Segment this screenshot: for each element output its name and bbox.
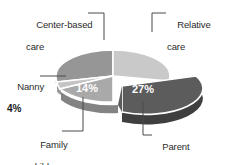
label-nanny-name: Nanny: [17, 81, 44, 92]
slice-relative-care[interactable]: [113, 50, 170, 81]
label-nanny-value: 4%: [7, 103, 44, 114]
leader-line-relative: [152, 13, 166, 32]
label-family-child-care: Family child care: [30, 128, 70, 165]
label-relative-care-line2: care: [167, 41, 211, 52]
label-family-child-care-line2: child care: [30, 161, 70, 165]
label-center-based-care: Center-based care: [26, 8, 93, 74]
label-relative-care: Relative care: [167, 8, 211, 74]
pie-chart-figure: 28% 27% 14% 27% Center-based care Relati…: [0, 0, 227, 165]
label-relative-care-line1: Relative: [177, 19, 211, 30]
label-center-based-care-line1: Center-based: [36, 19, 92, 30]
slice-value-parent: 27%: [132, 83, 154, 95]
label-nanny: Nanny 4%: [7, 70, 44, 136]
slice-value-family: 14%: [76, 82, 98, 94]
slice-parent-left-edge: [118, 86, 122, 112]
label-parent-name: Parent: [162, 141, 189, 152]
label-parent: Parent: [152, 130, 190, 163]
label-family-child-care-line1: Family: [40, 139, 67, 150]
slice-value-relative: 27%: [132, 41, 154, 53]
label-center-based-care-line2: care: [26, 41, 93, 52]
